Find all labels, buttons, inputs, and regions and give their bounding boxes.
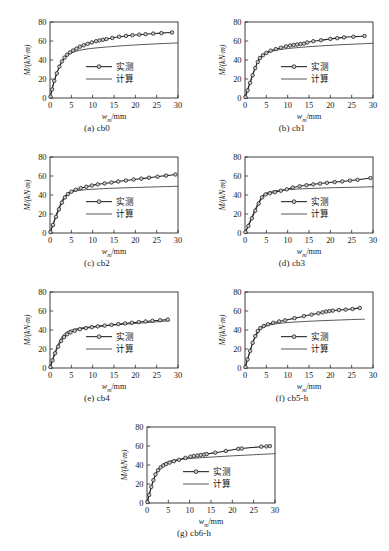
data-point-marker [144,320,148,324]
legend-marker-measured [194,470,198,474]
data-point-marker [244,230,248,234]
series-calculated [245,43,373,98]
data-point-marker [49,95,53,99]
plot-area-d: 051015202530020406080实测计算 [195,137,389,272]
data-point-marker [288,44,292,48]
data-point-marker [62,335,66,339]
data-point-marker [192,454,196,458]
x-tick-label: 30 [174,236,182,245]
data-point-marker [253,209,256,213]
y-tick-label: 40 [38,56,46,65]
x-tick-label: 20 [326,371,334,380]
axes-frame [245,22,373,98]
legend-label-calculated: 计算 [116,208,134,219]
y-tick-label: 80 [38,288,46,297]
x-tick-label: 20 [131,371,139,380]
data-point-marker [124,34,128,38]
series-measured [50,320,167,368]
data-point-marker [123,322,127,326]
y-tick-label: 20 [233,75,241,84]
x-tick-label: 0 [243,371,247,380]
y-tick-label: 0 [237,229,241,238]
data-point-marker [291,186,295,190]
legend-marker-measured [97,65,101,69]
data-point-marker [224,449,228,453]
data-point-marker [247,224,251,228]
data-point-marker [147,176,151,180]
data-point-marker [117,180,121,184]
data-point-marker [60,201,64,205]
data-point-marker [214,451,218,455]
data-point-marker [103,182,107,186]
data-point-marker [53,352,57,356]
y-tick-label: 40 [135,461,143,470]
x-tick-label: 5 [264,101,268,110]
data-point-marker [351,307,355,311]
legend-label-measured: 实测 [311,61,329,72]
x-tick-label: 25 [347,371,355,380]
data-point-marker [344,308,348,312]
x-tick-label: 25 [347,236,355,245]
data-point-marker [117,35,121,39]
x-tick-label: 25 [152,101,160,110]
legend-label-measured: 实测 [116,196,134,207]
data-point-marker [65,333,69,337]
data-point-marker [251,341,255,345]
data-point-marker [49,365,53,369]
y-tick-label: 60 [135,442,143,451]
data-point-marker [269,49,273,53]
data-point-marker [105,37,109,41]
data-point-marker [273,190,277,194]
subplot-a: M/(kN·m)wm/mm(a) cb005101520253002040608… [0,2,194,137]
plot-area-b: 051015202530020406080实测计算 [195,2,389,137]
y-tick-label: 60 [233,37,241,46]
data-point-marker [82,44,86,48]
y-tick-label: 60 [233,307,241,316]
series-calculated [147,454,275,503]
y-tick-label: 80 [233,153,241,162]
data-point-marker [299,42,303,46]
data-point-marker [341,180,345,184]
data-point-marker [110,181,114,185]
data-point-marker [277,320,281,324]
y-tick-label: 60 [38,307,46,316]
data-point-marker [111,36,115,40]
legend-label-calculated: 计算 [116,73,134,84]
data-point-marker [164,174,168,178]
data-point-marker [140,177,144,181]
data-point-marker [302,314,306,318]
legend-label-measured: 实测 [311,196,329,207]
x-tick-label: 15 [110,236,118,245]
data-point-marker [154,473,158,477]
data-point-marker [58,65,62,69]
data-point-marker [66,192,70,196]
data-point-marker [137,320,141,324]
plot-area-e: 051015202530020406080实测计算 [0,272,194,407]
x-tick-label: 30 [174,101,182,110]
x-tick-label: 15 [207,506,215,515]
data-point-marker [342,36,346,40]
y-tick-label: 0 [42,94,46,103]
data-point-marker [168,461,172,465]
data-point-marker [131,33,135,37]
legend-label-calculated: 计算 [311,208,329,219]
data-point-marker [305,183,309,187]
x-tick-label: 20 [326,236,334,245]
y-tick-label: 80 [233,18,241,27]
legend-label-calculated: 计算 [213,478,231,489]
data-point-marker [78,45,82,49]
legend-label-calculated: 计算 [311,343,329,354]
data-point-marker [151,319,155,323]
data-point-marker [73,329,77,333]
x-tick-label: 25 [152,371,160,380]
subplot-c: M/(kN·m)wm/mm(c) cb205101520253002040608… [0,137,194,272]
data-point-marker [293,316,297,320]
data-point-marker [54,215,58,219]
y-tick-label: 0 [42,364,46,373]
x-tick-label: 5 [264,371,268,380]
data-point-marker [79,186,83,190]
data-point-marker [124,179,128,183]
data-point-marker [246,358,250,362]
legend-marker-measured [292,335,296,339]
x-tick-label: 0 [145,506,149,515]
